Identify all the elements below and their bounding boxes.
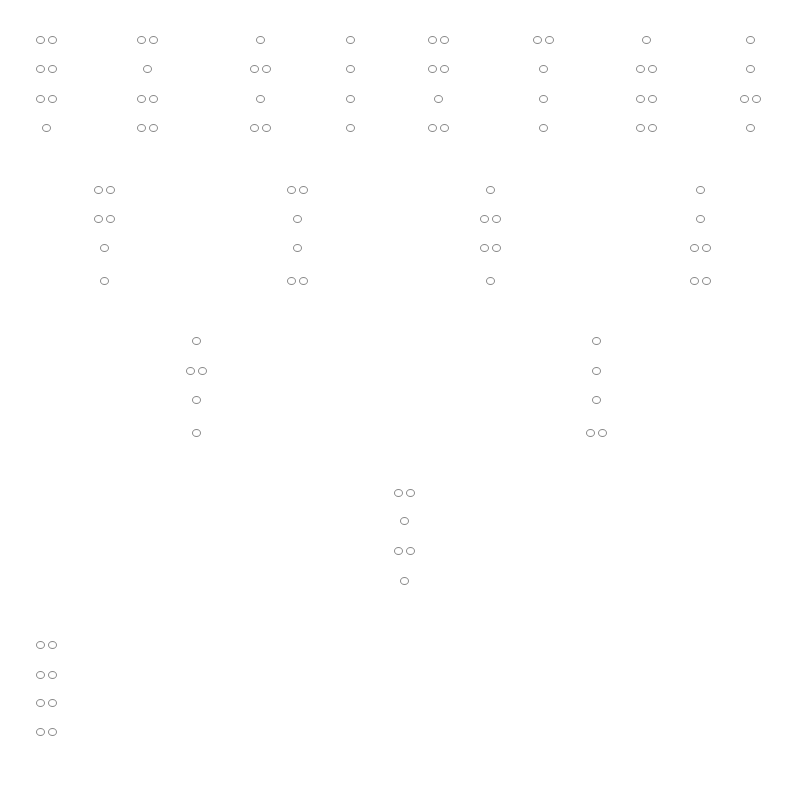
- double-dot-line: [384, 546, 424, 556]
- single-dot-line: [384, 576, 424, 586]
- single-dot-line: [176, 428, 216, 438]
- dot-icon: [480, 244, 489, 252]
- dot-icon: [480, 215, 489, 223]
- single-dot-line: [576, 366, 616, 376]
- single-dot-line: [680, 185, 720, 195]
- single-dot-line: [730, 35, 770, 45]
- single-dot-line: [277, 243, 317, 253]
- double-dot-line: [626, 123, 666, 133]
- dot-icon: [262, 124, 271, 132]
- dot-icon: [299, 186, 308, 194]
- single-dot-line: [330, 64, 370, 74]
- single-dot-line: [84, 243, 124, 253]
- single-dot-line: [523, 94, 563, 104]
- dot-icon: [36, 641, 45, 649]
- double-dot-line: [127, 35, 167, 45]
- dot-icon: [746, 36, 755, 44]
- single-dot-line: [470, 276, 510, 286]
- double-dot-line: [576, 428, 616, 438]
- dot-icon: [106, 215, 115, 223]
- dot-icon: [486, 186, 495, 194]
- dot-icon: [492, 215, 501, 223]
- dot-icon: [346, 124, 355, 132]
- single-dot-line: [127, 64, 167, 74]
- double-dot-line: [470, 243, 510, 253]
- dot-icon: [287, 277, 296, 285]
- dot-icon: [592, 396, 601, 404]
- dot-icon: [299, 277, 308, 285]
- dot-icon: [48, 65, 57, 73]
- dot-icon: [346, 95, 355, 103]
- dot-icon: [539, 95, 548, 103]
- double-dot-line: [523, 35, 563, 45]
- dot-icon: [149, 95, 158, 103]
- double-dot-line: [680, 243, 720, 253]
- dot-icon: [592, 367, 601, 375]
- double-dot-line: [26, 35, 66, 45]
- dot-icon: [539, 124, 548, 132]
- dot-icon: [192, 337, 201, 345]
- dot-icon: [400, 517, 409, 525]
- dot-icon: [696, 186, 705, 194]
- double-dot-line: [127, 123, 167, 133]
- single-dot-line: [240, 35, 280, 45]
- dot-icon: [198, 367, 207, 375]
- dot-icon: [287, 186, 296, 194]
- dot-icon: [428, 124, 437, 132]
- dot-icon: [702, 277, 711, 285]
- dot-icon: [48, 641, 57, 649]
- dot-icon: [690, 277, 699, 285]
- dot-icon: [440, 36, 449, 44]
- dot-icon: [48, 671, 57, 679]
- double-dot-line: [26, 727, 66, 737]
- double-dot-line: [26, 94, 66, 104]
- dot-icon: [137, 36, 146, 44]
- dot-icon: [149, 124, 158, 132]
- dot-icon: [48, 728, 57, 736]
- dot-icon: [149, 36, 158, 44]
- dot-icon: [250, 124, 259, 132]
- single-dot-line: [470, 185, 510, 195]
- dot-icon: [106, 186, 115, 194]
- dot-icon: [250, 65, 259, 73]
- double-dot-line: [26, 670, 66, 680]
- single-dot-line: [84, 276, 124, 286]
- dot-icon: [262, 65, 271, 73]
- dot-icon: [400, 577, 409, 585]
- double-dot-line: [240, 123, 280, 133]
- dot-icon: [293, 215, 302, 223]
- dot-icon: [36, 699, 45, 707]
- single-dot-line: [576, 395, 616, 405]
- dot-icon: [48, 699, 57, 707]
- dot-icon: [702, 244, 711, 252]
- single-dot-line: [384, 516, 424, 526]
- dot-icon: [539, 65, 548, 73]
- dot-icon: [406, 489, 415, 497]
- double-dot-line: [127, 94, 167, 104]
- dot-icon: [256, 36, 265, 44]
- dot-icon: [256, 95, 265, 103]
- dot-icon: [143, 65, 152, 73]
- double-dot-line: [680, 276, 720, 286]
- dot-icon: [636, 95, 645, 103]
- dot-icon: [434, 95, 443, 103]
- dot-icon: [690, 244, 699, 252]
- double-dot-line: [26, 640, 66, 650]
- single-dot-line: [730, 123, 770, 133]
- dot-icon: [36, 671, 45, 679]
- single-dot-line: [176, 395, 216, 405]
- double-dot-line: [418, 123, 458, 133]
- dot-icon: [346, 65, 355, 73]
- double-dot-line: [418, 64, 458, 74]
- double-dot-line: [26, 698, 66, 708]
- dot-icon: [100, 277, 109, 285]
- dot-icon: [94, 186, 103, 194]
- double-dot-line: [626, 64, 666, 74]
- single-dot-line: [240, 94, 280, 104]
- single-dot-line: [418, 94, 458, 104]
- single-dot-line: [330, 94, 370, 104]
- dot-icon: [48, 95, 57, 103]
- single-dot-line: [330, 123, 370, 133]
- dot-icon: [293, 244, 302, 252]
- dot-icon: [648, 65, 657, 73]
